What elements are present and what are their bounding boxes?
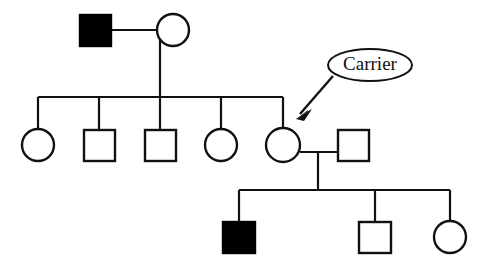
individual-g1-female-unaffected[interactable]: [157, 14, 189, 46]
individual-g3-male-affected[interactable]: [223, 222, 255, 253]
carrier-label-text: Carrier: [343, 53, 397, 74]
individual-g2-female-carrier[interactable]: [266, 128, 300, 162]
individual-g2-male-2[interactable]: [84, 130, 115, 161]
individual-g3-female-unaffected[interactable]: [434, 221, 466, 253]
pedigree-canvas: Carrier: [0, 0, 481, 261]
individual-g2-male-3[interactable]: [145, 130, 176, 161]
individual-g2-female-4[interactable]: [205, 129, 237, 161]
individual-g3-male-unaffected[interactable]: [359, 222, 391, 253]
pedigree-diagram: Carrier: [0, 0, 481, 261]
individual-g1-male-affected[interactable]: [80, 15, 111, 46]
carrier-arrow-shaft: [300, 76, 333, 114]
individual-g2-female-1[interactable]: [22, 129, 54, 161]
individual-g2-spouse-male[interactable]: [338, 130, 369, 161]
